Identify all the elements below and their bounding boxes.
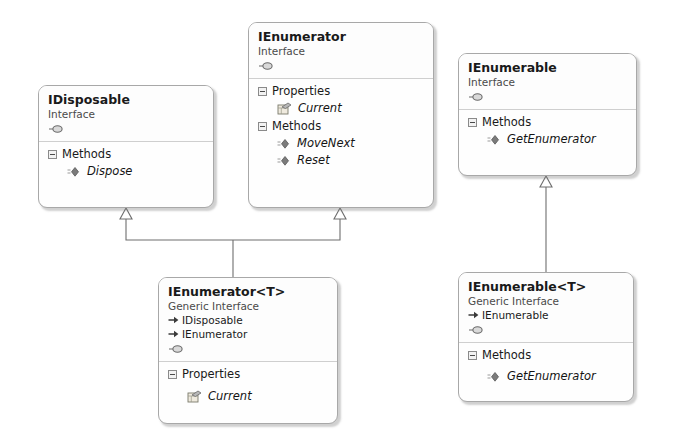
property-icon	[277, 102, 292, 115]
method-icon	[277, 138, 291, 150]
member-name: Current	[298, 100, 342, 117]
section-header-methods[interactable]: Methods	[258, 118, 424, 134]
class-stereotype: Interface	[468, 75, 627, 89]
member-row[interactable]: GetEnumerator	[468, 131, 627, 148]
base-interface-item[interactable]: IEnumerator	[168, 327, 328, 341]
class-header-ienumerator-generic: IEnumerator<T> Generic Interface IDispos…	[159, 278, 337, 361]
class-title: IEnumerable<T>	[468, 279, 624, 294]
base-interface-list: IDisposable IEnumerator	[168, 313, 328, 341]
base-interface-list: IEnumerable	[468, 308, 624, 322]
collapse-expander-icon[interactable]	[258, 122, 267, 131]
method-icon	[67, 166, 81, 178]
class-box-ienumerable[interactable]: IEnumerable Interface Methods GetEnumera…	[458, 53, 637, 176]
member-row[interactable]: Current	[168, 383, 328, 405]
section-properties: Properties Current Methods MoveNext	[249, 79, 433, 173]
section-header-methods[interactable]: Methods	[468, 347, 624, 363]
section-methods: Methods GetEnumerator	[459, 110, 636, 152]
base-interface-name: IDisposable	[182, 313, 243, 327]
collapse-expander-icon[interactable]	[258, 87, 267, 96]
base-interface-arrow-icon	[168, 329, 179, 339]
section-header-properties[interactable]: Properties	[258, 83, 424, 99]
class-box-idisposable[interactable]: IDisposable Interface Methods Dispose	[38, 85, 214, 208]
class-header-ienumerable-generic: IEnumerable<T> Generic Interface IEnumer…	[459, 273, 633, 342]
class-stereotype: Generic Interface	[168, 299, 328, 313]
class-box-ienumerable-generic[interactable]: IEnumerable<T> Generic Interface IEnumer…	[458, 272, 634, 402]
class-stereotype: Interface	[258, 44, 424, 58]
section-methods: Methods Dispose	[39, 142, 213, 184]
section-label: Methods	[62, 146, 111, 162]
diagram-canvas: IDisposable Interface Methods Dispose	[0, 0, 675, 444]
inheritance-arrow-idisposable	[120, 208, 132, 219]
member-row[interactable]: GetEnumerator	[468, 364, 624, 385]
class-title: IEnumerator	[258, 29, 424, 44]
collapse-expander-icon[interactable]	[168, 370, 177, 379]
member-name: GetEnumerator	[507, 368, 596, 385]
base-interface-name: IEnumerator	[182, 327, 247, 341]
lollipop-icon	[468, 92, 484, 102]
class-box-ienumerator[interactable]: IEnumerator Interface Properties Current	[248, 22, 434, 208]
member-row[interactable]: Dispose	[48, 163, 204, 180]
class-title: IEnumerable	[468, 60, 627, 75]
section-header-methods[interactable]: Methods	[468, 114, 627, 130]
property-icon	[187, 390, 202, 403]
member-row[interactable]: MoveNext	[258, 135, 424, 152]
class-stereotype: Interface	[48, 107, 204, 121]
method-icon	[487, 371, 501, 383]
interface-lollipop-row	[258, 58, 424, 73]
base-interface-arrow-icon	[168, 315, 179, 325]
section-header-properties[interactable]: Properties	[168, 366, 328, 382]
section-label: Methods	[272, 118, 321, 134]
member-name: Dispose	[87, 163, 132, 180]
section-label: Methods	[482, 114, 531, 130]
method-icon	[277, 155, 291, 167]
base-interface-item[interactable]: IDisposable	[168, 313, 328, 327]
interface-lollipop-row	[48, 121, 204, 136]
class-stereotype: Generic Interface	[468, 294, 624, 308]
method-icon	[487, 134, 501, 146]
base-interface-arrow-icon	[468, 310, 479, 320]
interface-lollipop-row	[468, 89, 627, 104]
class-box-ienumerator-generic[interactable]: IEnumerator<T> Generic Interface IDispos…	[158, 277, 338, 424]
member-name: MoveNext	[297, 135, 355, 152]
class-title: IEnumerator<T>	[168, 284, 328, 299]
class-header-idisposable: IDisposable Interface	[39, 86, 213, 141]
lollipop-icon	[48, 124, 64, 134]
class-title: IDisposable	[48, 92, 204, 107]
base-interface-name: IEnumerable	[482, 308, 549, 322]
member-row[interactable]: Current	[258, 100, 424, 117]
connector-generic-enumerator-elbow	[126, 219, 340, 240]
inheritance-arrow-ienumerator	[334, 208, 346, 219]
class-header-ienumerator: IEnumerator Interface	[249, 23, 433, 78]
section-properties: Properties Current	[159, 362, 337, 409]
collapse-expander-icon[interactable]	[468, 118, 477, 127]
member-row[interactable]: Reset	[258, 152, 424, 169]
lollipop-icon	[168, 344, 184, 354]
interface-lollipop-row	[468, 322, 624, 337]
section-header-methods[interactable]: Methods	[48, 146, 204, 162]
collapse-expander-icon[interactable]	[48, 150, 57, 159]
member-name: GetEnumerator	[507, 131, 596, 148]
member-name: Current	[208, 388, 252, 405]
lollipop-icon	[468, 325, 484, 335]
section-methods: Methods GetEnumerator	[459, 343, 633, 389]
collapse-expander-icon[interactable]	[468, 351, 477, 360]
member-name: Reset	[297, 152, 330, 169]
section-label: Properties	[182, 366, 240, 382]
inheritance-arrow-ienumerable	[540, 176, 552, 187]
class-header-ienumerable: IEnumerable Interface	[459, 54, 636, 109]
base-interface-item[interactable]: IEnumerable	[468, 308, 624, 322]
interface-lollipop-row	[168, 341, 328, 356]
section-label: Methods	[482, 347, 531, 363]
section-label: Properties	[272, 83, 330, 99]
lollipop-icon	[258, 61, 274, 71]
